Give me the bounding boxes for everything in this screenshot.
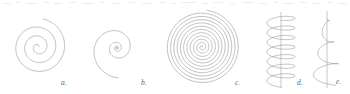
- figure-label-e: e.: [336, 77, 341, 86]
- panel-dense-spiral-c: [167, 10, 238, 82]
- dense-archimedean-spiral-curve: [167, 10, 238, 82]
- figure-label-b: b.: [141, 78, 147, 87]
- figure-label-a: a.: [61, 78, 67, 87]
- panel-cylindrical-helix-d: [267, 12, 295, 88]
- conical-helix-curve: [314, 19, 339, 85]
- spiral-figure-plate: a.b.c.d.e.: [0, 0, 350, 94]
- figure-label-group: a.b.c.d.e.: [61, 77, 341, 87]
- panel-archimedean-spiral-a: [16, 19, 65, 71]
- figure-label-d: d.: [297, 78, 303, 87]
- archimedean-spiral-curve: [16, 19, 65, 71]
- panel-logarithmic-spiral-b: [94, 31, 130, 78]
- figure-drawing-canvas: a.b.c.d.e.: [0, 0, 350, 94]
- logarithmic-spiral-curve: [94, 31, 130, 78]
- panel-conical-helix-e: [314, 11, 339, 88]
- figure-label-c: c.: [235, 78, 240, 87]
